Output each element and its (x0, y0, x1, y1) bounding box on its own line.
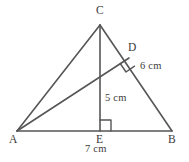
point-label-B: B (168, 134, 176, 146)
point-label-D: D (128, 42, 137, 54)
point-label-C: C (96, 5, 104, 17)
segment-side-AC (17, 25, 100, 131)
measure-label-AD: 6 cm (140, 61, 162, 72)
point-label-A: A (9, 134, 18, 146)
geometry-canvas (0, 0, 189, 162)
measure-label-AB: 7 cm (85, 144, 107, 155)
measure-label-CE: 5 cm (105, 93, 127, 104)
right-angle-at-E-mark (100, 120, 111, 131)
geometry-figure: C D A E B 6 cm 5 cm 7 cm (0, 0, 189, 162)
